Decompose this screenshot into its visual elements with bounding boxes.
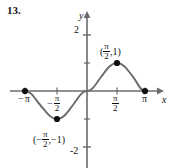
neg-pi-symbol: π bbox=[25, 94, 30, 104]
graph-plot bbox=[0, 0, 176, 168]
x-tick-label-neg-pi: −π bbox=[18, 94, 30, 104]
y-tick-label-2: 2 bbox=[74, 25, 79, 35]
figure-container: 13. bbox=[0, 0, 176, 168]
neg-pi-over-2-denominator: 2 bbox=[54, 104, 61, 113]
point-label-max: (π2, 1) bbox=[100, 42, 121, 62]
x-tick-label-pi-over-2: π2 bbox=[112, 94, 119, 114]
x-tick-label-pi: π bbox=[142, 94, 147, 104]
max-close-paren: ) bbox=[117, 47, 120, 57]
pi-over-2-denominator: 2 bbox=[112, 104, 119, 113]
min-y-value: −1 bbox=[51, 135, 62, 145]
neg-pi-over-2-sign: − bbox=[47, 99, 53, 109]
pi-symbol: π bbox=[142, 94, 147, 104]
neg-pi-sign: − bbox=[18, 94, 24, 104]
x-axis-label: x bbox=[162, 95, 166, 105]
neg-pi-over-2-fraction: π2 bbox=[54, 94, 61, 114]
min-close-paren: ) bbox=[62, 135, 65, 145]
y-tick-label-minus-2: -2 bbox=[70, 146, 78, 156]
point-min bbox=[54, 116, 60, 122]
y-axis-label: y bbox=[79, 11, 83, 21]
point-label-min: (−π2, −1) bbox=[33, 130, 65, 150]
pi-over-2-fraction: π2 bbox=[112, 94, 119, 114]
x-tick-label-neg-pi-over-2: −π2 bbox=[47, 94, 60, 114]
